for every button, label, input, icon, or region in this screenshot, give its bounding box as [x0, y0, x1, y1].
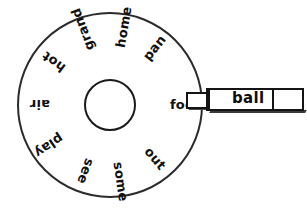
card-left-tab[interactable] — [186, 92, 208, 109]
card-divider-right — [272, 90, 274, 109]
word-wheel[interactable]: foot pan home grand hot air play see som… — [17, 12, 203, 198]
word-wheel-diagram: foot pan home grand hot air play see som… — [0, 0, 307, 213]
wheel-center-hub[interactable] — [84, 79, 136, 131]
wheel-word-air[interactable]: air — [30, 97, 50, 112]
card-divider-left — [208, 90, 210, 109]
sliding-card[interactable]: ball — [186, 88, 304, 114]
card-word-ball: ball — [232, 89, 264, 108]
